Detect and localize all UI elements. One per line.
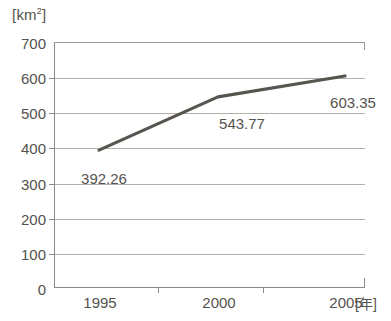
x-axis-unit-label: [年] [355, 293, 377, 313]
frame-right-top-cap [364, 43, 365, 50]
y-axis-label: 500 [21, 105, 46, 122]
y-axis-tick [49, 113, 55, 114]
gridline [55, 148, 365, 149]
y-axis-label: 300 [21, 175, 46, 192]
data-point-value-label: 603.35 [330, 93, 376, 110]
y-axis-label: 100 [21, 245, 46, 262]
gridline [55, 113, 365, 114]
gridline [55, 78, 365, 79]
frame-right-bottom-cap [364, 278, 365, 287]
x-axis-label: 1995 [83, 294, 116, 311]
y-axis-label: 700 [21, 35, 46, 52]
line-chart: [km2] 0100200300400500600700199520002005… [0, 0, 391, 321]
data-point-value-label: 543.77 [219, 114, 265, 131]
y-axis-unit-text: km [16, 6, 36, 23]
plot-area: 0100200300400500600700199520002005 [54, 42, 365, 288]
y-axis-unit-label: [km2] [12, 6, 46, 23]
y-axis-label: 400 [21, 140, 46, 157]
gridline [55, 219, 365, 220]
y-axis-tick [49, 219, 55, 220]
y-axis-tick [49, 184, 55, 185]
x-axis-tick [158, 287, 159, 293]
data-point-value-label: 392.26 [81, 170, 127, 187]
y-axis-unit-superscript: 2 [37, 6, 42, 16]
y-axis-tick [49, 254, 55, 255]
y-axis-tick [49, 148, 55, 149]
x-axis-label: 2000 [202, 294, 235, 311]
y-axis-label: 200 [21, 210, 46, 227]
x-axis-tick [263, 287, 264, 293]
y-axis-tick [49, 78, 55, 79]
y-axis-label: 0 [38, 281, 46, 298]
y-axis-label: 600 [21, 70, 46, 87]
gridline [55, 254, 365, 255]
